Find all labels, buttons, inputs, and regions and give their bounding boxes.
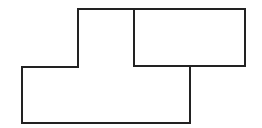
diagram-canvas [0, 0, 262, 128]
right-rectangle [134, 9, 245, 66]
